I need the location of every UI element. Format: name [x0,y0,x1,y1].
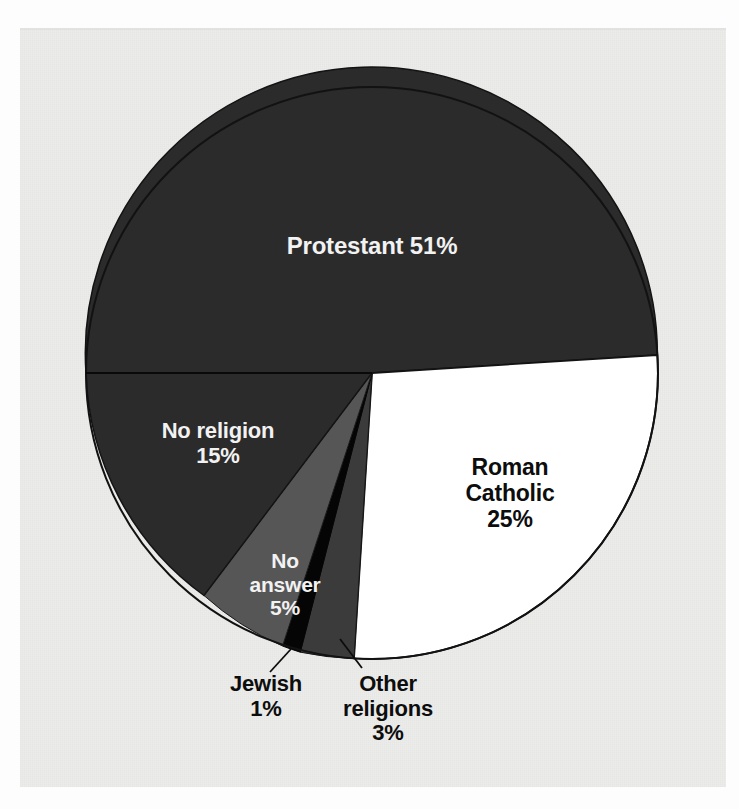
pie-label-no-religion: No religion 15% [113,419,323,468]
pie-label-other-religions: Other religions 3% [313,672,463,746]
pie-label-protestant: Protestant 51% [232,233,512,260]
pie-label-no-answer: No answer 5% [225,549,345,620]
leader-line-jewish [270,649,291,672]
pie-label-roman-catholic: Roman Catholic 25% [420,455,600,532]
figure-page: Protestant 51% No religion 15% Roman Cat… [0,0,739,809]
pie-slice-protestant[interactable] [85,67,657,373]
